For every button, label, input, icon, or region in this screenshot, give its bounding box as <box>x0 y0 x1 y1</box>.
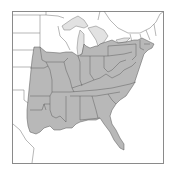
map-canvas <box>0 0 174 175</box>
range-map <box>0 0 174 175</box>
